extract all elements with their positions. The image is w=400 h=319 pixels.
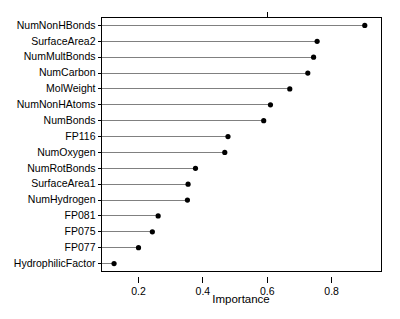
dot-group [111, 23, 367, 266]
category-label-group: NumNonHBondsSurfaceArea2NumMultBondsNumC… [14, 19, 96, 269]
category-label: SurfaceArea2 [31, 35, 95, 47]
category-label: NumNonHAtoms [17, 98, 96, 110]
category-label: SurfaceArea1 [31, 177, 95, 189]
category-label: NumNonHBonds [17, 19, 96, 31]
panel-border [102, 18, 382, 272]
data-point-marker [315, 39, 320, 44]
data-point-marker [185, 182, 190, 187]
data-point-marker [222, 150, 227, 155]
category-label: NumRotBonds [27, 162, 95, 174]
category-label: NumMultBonds [24, 50, 96, 62]
data-point-marker [305, 70, 310, 75]
x-axis-tick-group [139, 12, 332, 283]
data-point-marker [268, 102, 273, 107]
data-point-marker [261, 118, 266, 123]
category-label: FP077 [65, 241, 96, 253]
data-point-marker [362, 23, 367, 28]
dotplot-svg: 0.20.40.60.8 NumNonHBondsSurfaceArea2Num… [0, 0, 400, 319]
category-label: NumBonds [44, 114, 96, 126]
category-label: NumHydrogen [28, 193, 96, 205]
data-point-marker [111, 261, 116, 266]
data-point-marker [136, 245, 141, 250]
data-point-marker [150, 229, 155, 234]
needle-group [98, 25, 365, 263]
data-point-marker [311, 55, 316, 60]
category-label: HydrophilicFactor [14, 257, 96, 269]
category-label: NumOxygen [37, 146, 96, 158]
category-label: NumCarbon [39, 66, 96, 78]
x-axis-tick-label: 0.2 [131, 285, 146, 297]
category-label: FP081 [65, 209, 96, 221]
data-point-marker [156, 213, 161, 218]
x-axis-tick-label: 0.8 [324, 285, 339, 297]
data-point-marker [193, 166, 198, 171]
category-label: FP116 [65, 130, 95, 142]
data-point-marker [225, 134, 230, 139]
data-point-marker [287, 86, 292, 91]
data-point-marker [185, 197, 190, 202]
category-label: MolWeight [46, 82, 95, 94]
category-label: FP075 [65, 225, 96, 237]
x-axis-title: Importance [212, 293, 270, 305]
x-axis-tick-label: 0.4 [196, 285, 211, 297]
variable-importance-chart: 0.20.40.60.8 NumNonHBondsSurfaceArea2Num… [0, 0, 400, 319]
